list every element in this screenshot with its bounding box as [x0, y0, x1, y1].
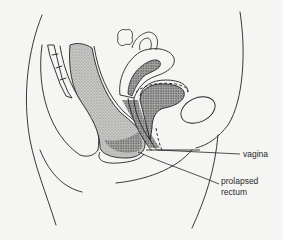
label-prolapsed-rectum-line1: prolapsed	[221, 176, 258, 186]
label-rectum-text: rectum	[221, 187, 247, 197]
pelvis-illustration	[0, 0, 283, 240]
label-prolapsed-rectum-line2: rectum	[221, 187, 247, 197]
leader-line-prolapsed-rectum	[138, 152, 219, 184]
perineum-curve	[40, 150, 82, 192]
label-vagina-text: vagina	[243, 149, 268, 159]
body-contour-front	[196, 12, 243, 148]
ovary	[118, 29, 133, 45]
label-vagina: vagina	[243, 149, 268, 159]
leader-line-vagina	[158, 150, 240, 154]
thigh-contour-front	[192, 135, 218, 228]
label-prolapsed-text: prolapsed	[221, 176, 258, 186]
pelvic-diagram: vagina prolapsed rectum	[0, 0, 283, 240]
sacrum	[48, 45, 72, 98]
fallopian-tube	[132, 32, 158, 50]
